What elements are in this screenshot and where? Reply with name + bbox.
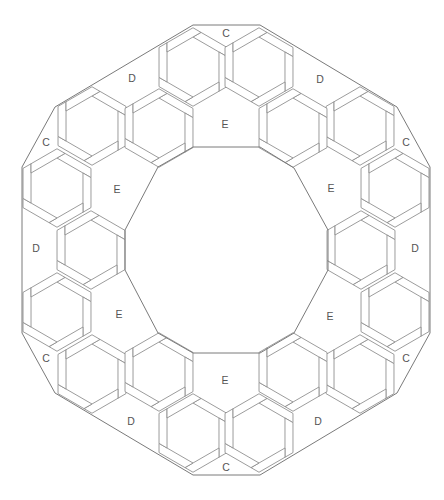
frame-strip <box>285 418 293 457</box>
frame-strip <box>57 226 65 265</box>
frame-strip <box>361 288 369 327</box>
region-label-d: D <box>128 72 136 84</box>
frame-strip <box>58 102 66 141</box>
region-label-c: C <box>42 352 50 364</box>
frame-strip <box>386 359 394 398</box>
region-label-d: D <box>316 73 324 85</box>
region-label-d: D <box>314 415 322 427</box>
frame-strip <box>259 348 267 387</box>
region-label-c: C <box>402 136 410 148</box>
frame-strip <box>58 350 66 389</box>
frame-strip <box>421 297 429 336</box>
region-label-e: E <box>221 118 228 130</box>
frame-strip <box>83 173 91 212</box>
frame-strip <box>117 235 125 274</box>
frame-strip <box>159 409 167 448</box>
frame-strip <box>285 52 293 91</box>
frame-strip <box>23 164 31 203</box>
frame-strip <box>319 113 327 152</box>
frame-strip <box>225 43 233 82</box>
frame-strip <box>361 164 369 203</box>
region-label-d: D <box>32 242 40 254</box>
region-label-c: C <box>222 27 230 39</box>
region-label-e: E <box>113 183 120 195</box>
frame-strip <box>421 173 429 212</box>
frame-strip <box>23 288 31 327</box>
region-label-e: E <box>326 310 333 322</box>
region-label-e: E <box>327 182 334 194</box>
region-label-e: E <box>221 374 228 386</box>
region-label-d: D <box>411 242 419 254</box>
frame-strip <box>185 357 193 396</box>
hexagon-ring-template: CCCCCCDDDDDDEEEEEE <box>0 0 444 500</box>
region-label-c: C <box>222 461 230 473</box>
frame-strip <box>387 235 395 274</box>
region-label-e: E <box>115 308 122 320</box>
frame-strip <box>319 357 327 396</box>
quilt-pattern-diagram: CCCCCCDDDDDDEEEEEE <box>0 0 444 500</box>
region-label-c: C <box>42 136 50 148</box>
frame-strip <box>125 348 133 387</box>
frame-strip <box>125 104 133 143</box>
frame-strip <box>225 409 233 448</box>
frame-strip <box>185 113 193 152</box>
frame-strip <box>386 111 394 150</box>
region-label-d: D <box>127 415 135 427</box>
frame-strip <box>259 104 267 143</box>
frame-strip <box>83 297 91 336</box>
frame-strip <box>159 43 167 82</box>
region-label-c: C <box>402 352 410 364</box>
